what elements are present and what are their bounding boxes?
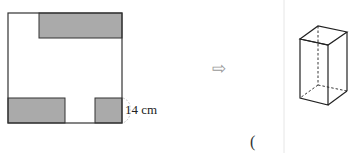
top-shaded-rect <box>39 13 122 38</box>
bottom-left-shaded-rect <box>8 98 65 123</box>
bottom-right-shaded-rect <box>95 98 122 123</box>
diagram-canvas <box>0 0 357 153</box>
dimension-label: 14 cm <box>125 102 157 118</box>
answer-parenthesis: ( <box>250 134 255 150</box>
net-figure <box>8 13 130 123</box>
transform-arrow-icon: ⇨ <box>212 60 226 77</box>
rectangular-prism <box>300 26 347 105</box>
